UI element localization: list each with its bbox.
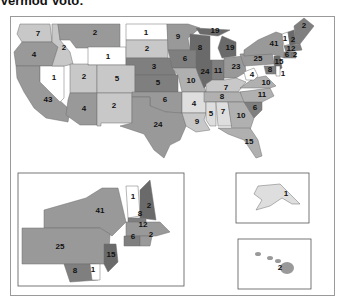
inset-state-label-ny: 41 — [96, 206, 105, 215]
state-label-in: 11 — [214, 66, 223, 75]
inset-state-label-ct: 6 — [131, 232, 136, 241]
state-label-nj: 15 — [275, 57, 284, 66]
hawaii-inset-frame — [238, 239, 311, 289]
hawaii-island[interactable] — [267, 256, 273, 260]
state-label-tx: 24 — [154, 120, 163, 129]
state-label-nv: 1 — [52, 73, 57, 82]
state-label-nc: 11 — [258, 90, 267, 99]
state-label-or: 4 — [32, 50, 37, 59]
inset-state-pa[interactable] — [22, 228, 110, 264]
inset-state-label-md: 8 — [73, 266, 78, 275]
state-label-ms: 5 — [209, 109, 214, 118]
inset-state-label-de: 1 — [91, 265, 96, 274]
state-label-mn: 9 — [176, 32, 181, 41]
state-label-ny: 41 — [270, 39, 279, 48]
state-label-ct: 6 — [285, 50, 290, 59]
state-label-wa: 7 — [36, 29, 41, 38]
state-label-wv: 4 — [250, 70, 255, 79]
state-wa[interactable] — [17, 24, 52, 42]
state-label-ky: 7 — [224, 83, 229, 92]
state-label-vt: 1 — [283, 34, 288, 43]
inset-state-label-ma-n: 8 — [138, 209, 143, 218]
state-label-ri: 2 — [293, 50, 298, 59]
state-de[interactable] — [276, 66, 280, 76]
state-label-fl: 15 — [245, 137, 254, 146]
state-label-mi-up: 19 — [211, 26, 220, 35]
state-label-ar: 4 — [192, 99, 197, 108]
state-label-mi: 19 — [226, 43, 235, 52]
state-label-md: 8 — [268, 65, 273, 74]
state-label-pa: 25 — [254, 54, 263, 63]
state-label-ga: 10 — [237, 111, 246, 120]
hawaii-island[interactable] — [255, 252, 261, 256]
state-label-hi: 2 — [278, 263, 283, 272]
state-label-al: 7 — [221, 107, 226, 116]
state-label-ca: 43 — [44, 95, 53, 104]
state-label-co: 5 — [115, 74, 120, 83]
inset-state-label-pa: 25 — [56, 242, 65, 251]
us-electoral-map: 7443122124521235624961049824191911237857… — [0, 0, 345, 302]
inset-state-label-ri: 2 — [149, 230, 154, 239]
state-label-wi: 8 — [198, 43, 203, 52]
state-label-mo: 10 — [187, 76, 196, 85]
state-label-nm: 2 — [112, 101, 117, 110]
state-label-ne: 3 — [152, 62, 157, 71]
inset-state-label-nh: 2 — [147, 201, 152, 210]
state-fl[interactable] — [218, 128, 262, 158]
state-label-mt: 2 — [93, 28, 98, 37]
state-mt[interactable] — [58, 24, 120, 48]
state-label-tn: 8 — [220, 92, 225, 101]
state-label-az: 4 — [82, 104, 87, 113]
state-label-ut: 2 — [82, 72, 87, 81]
inset-state-label-ma: 12 — [139, 220, 148, 229]
state-label-wy: 1 — [106, 52, 111, 61]
state-label-il: 24 — [201, 67, 210, 76]
state-label-ks: 5 — [156, 78, 161, 87]
state-label-sd: 2 — [145, 44, 150, 53]
state-label-la: 9 — [195, 117, 200, 126]
state-label-oh: 23 — [232, 62, 241, 71]
state-label-ak: 1 — [284, 189, 289, 198]
state-label-id: 2 — [62, 43, 67, 52]
state-label-me: 2 — [302, 21, 307, 30]
state-label-nd: 1 — [144, 28, 149, 37]
state-label-ok: 6 — [163, 95, 168, 104]
inset-state-label-vt: 1 — [131, 192, 136, 201]
state-label-sc: 6 — [253, 103, 258, 112]
inset-state-label-nj: 15 — [107, 250, 116, 259]
state-label-nh: 2 — [291, 35, 296, 44]
state-label-va: 10 — [262, 78, 271, 87]
state-label-de: 1 — [281, 69, 286, 78]
state-label-ia: 6 — [183, 54, 188, 63]
